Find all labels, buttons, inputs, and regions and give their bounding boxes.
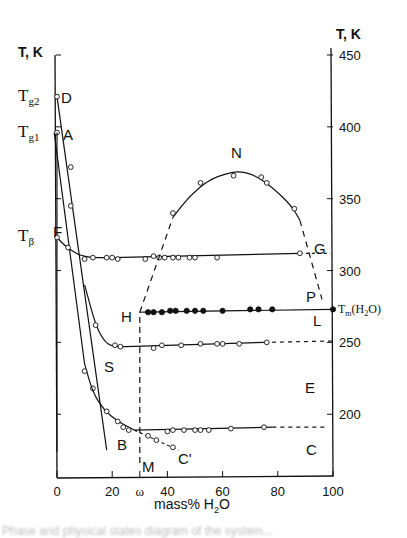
open-data-point (110, 255, 115, 260)
bottom-axis (57, 476, 333, 478)
open-data-point (193, 255, 198, 260)
open-data-point (126, 428, 131, 433)
open-data-point (171, 255, 176, 260)
open-data-point (259, 175, 264, 180)
filled-data-point (151, 310, 156, 315)
open-data-point (104, 409, 109, 414)
filled-data-point (220, 308, 225, 313)
open-data-point (93, 323, 98, 328)
right-axis (331, 48, 333, 476)
point-label-F: F (53, 223, 62, 240)
open-data-point (143, 257, 148, 262)
point-label-P: P (306, 288, 316, 305)
right-axis-title: T, K (336, 26, 361, 42)
filled-data-point (173, 308, 178, 313)
open-data-point (115, 257, 120, 262)
open-data-point (187, 255, 192, 260)
data-series (54, 94, 335, 463)
filled-data-point (201, 308, 206, 313)
open-data-point (104, 255, 109, 260)
open-data-point (90, 255, 95, 260)
point-label-B: B (117, 436, 127, 453)
open-data-point (151, 346, 156, 351)
open-data-point (55, 94, 60, 99)
open-data-point (162, 255, 167, 260)
point-label-D: D (61, 89, 72, 106)
x-tick-label: 80 (271, 484, 285, 499)
point-label-S: S (104, 358, 114, 375)
point-label-H: H (121, 308, 132, 325)
open-data-point (231, 173, 236, 178)
open-data-point (171, 445, 176, 450)
open-data-point (82, 369, 87, 374)
x-tick-label: 0 (53, 484, 60, 499)
point-label-C: C (306, 441, 317, 458)
x-tick-label: ω (136, 484, 145, 499)
filled-data-point (270, 307, 275, 312)
open-data-point (292, 206, 297, 211)
y-tick-label: 200 (339, 407, 361, 422)
label-tbeta: Tβ (18, 226, 34, 247)
open-data-point (182, 428, 187, 433)
filled-data-point (256, 307, 261, 312)
figure-caption: Phase and physical states diagram of the… (2, 524, 273, 538)
open-data-point (82, 257, 87, 262)
point-label-M: M (142, 458, 155, 475)
y-tick-label: 350 (339, 192, 361, 207)
filled-data-point (168, 308, 173, 313)
open-data-point (220, 341, 225, 346)
open-data-point (165, 429, 170, 434)
y-tick-label: 250 (339, 335, 361, 350)
filled-data-point (159, 310, 164, 315)
label-tg2: Tg2 (18, 86, 39, 107)
open-data-point (198, 428, 203, 433)
y-tick-label: 400 (339, 120, 361, 135)
x-tick-label: 20 (105, 484, 119, 499)
open-data-point (264, 180, 269, 185)
left-axis-title: T, K (18, 44, 43, 60)
x-tick-label: 100 (322, 484, 344, 499)
filled-data-point (192, 308, 197, 313)
open-data-point (206, 428, 211, 433)
filled-data-point (330, 307, 335, 312)
series-line (264, 341, 333, 342)
filled-data-point (145, 310, 150, 315)
open-data-point (262, 425, 267, 430)
y-tick-label: 300 (339, 264, 361, 279)
label-tm-h2o: Tm(H2O) (338, 302, 381, 318)
series-line (126, 342, 264, 346)
filled-data-point (184, 308, 189, 313)
open-data-point (159, 343, 164, 348)
open-data-point (121, 425, 126, 430)
open-data-point (237, 341, 242, 346)
point-label-N: N (231, 144, 242, 161)
open-data-point (151, 254, 156, 259)
open-data-point (228, 426, 233, 431)
open-data-point (193, 428, 198, 433)
open-data-point (154, 438, 159, 443)
point-label-Cprime: C' (178, 450, 192, 467)
filled-data-point (248, 307, 253, 312)
open-data-point (179, 343, 184, 348)
series-line (140, 217, 173, 312)
open-data-point (198, 341, 203, 346)
series-line (57, 97, 107, 451)
open-data-point (68, 165, 73, 170)
label-tg1: Tg1 (18, 122, 39, 143)
open-data-point (297, 251, 302, 256)
series-curve (173, 172, 300, 220)
open-data-point (113, 343, 118, 348)
point-label-G: G (314, 240, 326, 257)
open-data-point (215, 255, 220, 260)
open-data-point (171, 428, 176, 433)
open-data-point (115, 419, 120, 424)
open-data-point (118, 344, 123, 349)
x-axis-title: mass% H2O (154, 496, 230, 515)
open-data-point (66, 245, 71, 250)
open-data-point (264, 340, 269, 345)
point-label-A: A (63, 126, 73, 143)
open-data-point (146, 433, 151, 438)
open-data-point (215, 341, 220, 346)
open-data-point (68, 203, 73, 208)
